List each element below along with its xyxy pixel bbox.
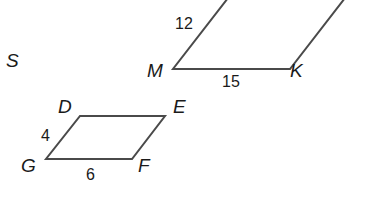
large-parallelogram xyxy=(173,0,345,69)
side-label-small-bottom: 6 xyxy=(86,166,95,183)
side-label-small-left: 4 xyxy=(41,127,50,144)
vertex-label-top-left-large: J xyxy=(205,0,216,3)
similar-parallelograms-diagram: S J M K 12 15 D E G F 4 6 xyxy=(0,0,372,202)
vertex-label-f: F xyxy=(138,155,151,176)
small-parallelogram xyxy=(46,116,165,159)
vertex-label-e: E xyxy=(173,96,186,117)
side-label-large-left: 12 xyxy=(175,15,193,32)
side-label-large-bottom: 15 xyxy=(222,73,240,90)
vertex-label-k: K xyxy=(290,60,304,81)
vertex-label-d: D xyxy=(58,96,72,117)
vertex-label-g: G xyxy=(21,155,36,176)
figure-label: S xyxy=(6,50,19,71)
vertex-label-m: M xyxy=(147,60,163,81)
